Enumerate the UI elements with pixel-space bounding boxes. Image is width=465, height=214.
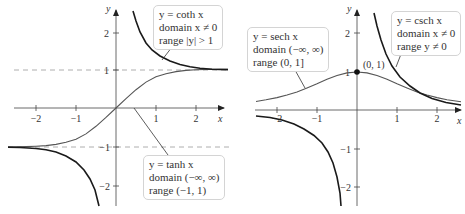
- point-0-1: [354, 69, 360, 75]
- x-tick-label: −1: [312, 113, 323, 124]
- tanh-domain: domain (−∞, ∞): [149, 171, 219, 184]
- y-tick-label: −2: [340, 182, 351, 193]
- y-axis-label: y: [105, 3, 111, 14]
- x-axis-label: x: [217, 113, 223, 124]
- sech-range: range (0, 1]: [253, 56, 323, 69]
- csch-label-box: y = csch x domain x ≠ 0 range y ≠ 0: [391, 11, 461, 56]
- y-tick-label: 1: [104, 65, 109, 76]
- csch-domain: domain x ≠ 0: [397, 27, 455, 40]
- sech-leader-line: [295, 70, 305, 88]
- csch-equation: y = csch x: [397, 14, 455, 27]
- coth-equation: y = coth x: [159, 8, 217, 21]
- sech-equation: y = sech x: [253, 30, 323, 43]
- x-tick-label: 1: [154, 113, 159, 124]
- y-tick-label: 2: [345, 28, 350, 39]
- x-axis-label: x: [456, 115, 462, 126]
- coth-range: range |y| > 1: [159, 34, 217, 47]
- x-tick-label: 2: [435, 113, 440, 124]
- sech-label-box: y = sech x domain (−∞, ∞) range (0, 1]: [247, 27, 329, 72]
- coth-domain: domain x ≠ 0: [159, 21, 217, 34]
- x-tick-label: 2: [194, 113, 199, 124]
- x-tick-label: −1: [71, 113, 82, 124]
- y-tick-label: −2: [99, 181, 110, 192]
- point-label: (0, 1): [363, 59, 385, 71]
- tanh-range: range (−1, 1): [149, 184, 219, 197]
- csch-curve-negative: [256, 116, 341, 206]
- tanh-leader-line: [134, 108, 168, 155]
- y-tick-label: −1: [340, 144, 351, 155]
- csch-range: range y ≠ 0: [397, 40, 455, 53]
- y-axis-label: y: [346, 3, 352, 14]
- tanh-equation: y = tanh x: [149, 158, 219, 171]
- y-tick-label: 2: [104, 28, 109, 39]
- tanh-label-box: y = tanh x domain (−∞, ∞) range (−1, 1): [143, 155, 225, 200]
- sech-domain: domain (−∞, ∞): [253, 43, 323, 56]
- x-tick-label: −2: [31, 113, 42, 124]
- coth-curve-negative: [8, 147, 99, 206]
- x-tick-label: 1: [395, 113, 400, 124]
- y-tick-label: −1: [99, 142, 110, 153]
- coth-label-box: y = coth x domain x ≠ 0 range |y| > 1: [153, 5, 223, 50]
